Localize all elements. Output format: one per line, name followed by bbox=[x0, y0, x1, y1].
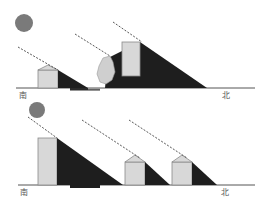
north-label: 北 bbox=[221, 189, 229, 197]
tree-icon bbox=[97, 56, 115, 84]
tall-building-shadow bbox=[57, 138, 123, 185]
sun-ray bbox=[129, 120, 187, 158]
sun-ray bbox=[28, 117, 57, 138]
small-house bbox=[125, 155, 145, 185]
diagram-canvas bbox=[0, 0, 269, 207]
south-label: 南 bbox=[19, 92, 27, 100]
sun-icon bbox=[29, 102, 45, 118]
tall-building-shadow bbox=[105, 42, 207, 88]
top-panel bbox=[15, 14, 255, 91]
small-house-shadow bbox=[145, 162, 170, 185]
tall-building bbox=[38, 138, 57, 185]
sun-ray bbox=[113, 22, 142, 42]
bottom-panel bbox=[18, 102, 255, 188]
sun-ray bbox=[82, 120, 140, 158]
sun-ray bbox=[75, 34, 110, 56]
small-house-shadow bbox=[58, 70, 88, 88]
sun-icon bbox=[15, 14, 33, 32]
sun-ray bbox=[18, 47, 58, 70]
small-house-shadow bbox=[192, 162, 217, 185]
tall-building bbox=[122, 42, 140, 76]
small-house bbox=[172, 155, 192, 185]
underground-bar bbox=[70, 185, 100, 188]
underground-bar-light bbox=[88, 88, 100, 90]
south-label: 南 bbox=[20, 189, 28, 197]
north-label: 北 bbox=[222, 92, 230, 100]
